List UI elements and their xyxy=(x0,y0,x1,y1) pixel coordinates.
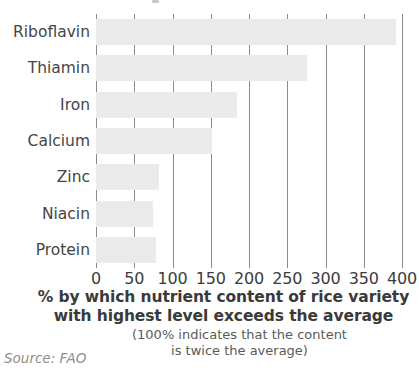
category-label-zinc: Zinc xyxy=(0,164,90,190)
bar-riboflavin xyxy=(96,19,396,45)
axis-caption: % by which nutrient content of rice vari… xyxy=(28,288,419,325)
table-row xyxy=(96,55,307,81)
bar-zinc xyxy=(96,164,159,190)
sub-caption: (100% indicates that the content is twic… xyxy=(60,327,419,359)
bar-iron xyxy=(96,92,237,118)
bar-protein xyxy=(96,237,156,263)
table-row xyxy=(96,92,237,118)
bar-niacin xyxy=(96,201,153,227)
tick-label-300: 300 xyxy=(311,269,341,288)
category-label-niacin: Niacin xyxy=(0,201,90,227)
table-row xyxy=(96,164,159,190)
tick-label-100: 100 xyxy=(158,269,188,288)
tick-label-350: 350 xyxy=(349,269,379,288)
category-label-iron: Iron xyxy=(0,92,90,118)
gridline-400 xyxy=(402,14,403,268)
tick-label-50: 50 xyxy=(124,269,144,288)
tick-label-150: 150 xyxy=(196,269,226,288)
source-note: Source: FAO xyxy=(4,350,86,366)
category-axis-labels: RiboflavinThiaminIronCalciumZincNiacinPr… xyxy=(0,14,90,268)
sub-caption-line-2: is twice the average) xyxy=(60,343,419,359)
cropped-title-remnant xyxy=(152,0,159,3)
category-label-riboflavin: Riboflavin xyxy=(0,19,90,45)
tick-label-250: 250 xyxy=(272,269,302,288)
category-label-protein: Protein xyxy=(0,237,90,263)
axis-caption-line-1: % by which nutrient content of rice vari… xyxy=(28,288,419,307)
category-label-calcium: Calcium xyxy=(0,128,90,154)
category-label-thiamin: Thiamin xyxy=(0,55,90,81)
table-row xyxy=(96,128,212,154)
tick-label-0: 0 xyxy=(91,269,101,288)
sub-caption-line-1: (100% indicates that the content xyxy=(60,327,419,343)
plot-area xyxy=(96,14,402,268)
axis-caption-line-2: with highest level exceeds the average xyxy=(28,307,419,326)
tick-label-200: 200 xyxy=(234,269,264,288)
table-row xyxy=(96,201,153,227)
bar-series xyxy=(96,14,402,268)
value-axis-tick-labels: 050100150200250300350400 xyxy=(0,269,419,289)
bar-thiamin xyxy=(96,55,307,81)
table-row xyxy=(96,19,396,45)
bar-calcium xyxy=(96,128,212,154)
table-row xyxy=(96,237,156,263)
bar-chart: RiboflavinThiaminIronCalciumZincNiacinPr… xyxy=(0,0,419,372)
tick-label-400: 400 xyxy=(387,269,417,288)
